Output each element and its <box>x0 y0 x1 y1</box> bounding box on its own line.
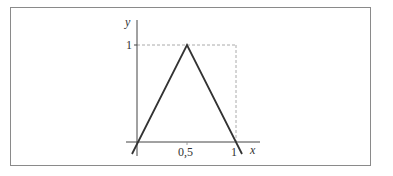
y-tick-label-1: 1 <box>126 39 132 51</box>
x-tick-label-half: 0,5 <box>178 146 193 158</box>
triangle-plot <box>0 0 393 176</box>
y-axis-label: y <box>125 16 130 28</box>
x-axis-label: x <box>250 144 255 156</box>
triangle-function-line <box>132 45 242 154</box>
x-tick-label-1: 1 <box>231 146 237 158</box>
